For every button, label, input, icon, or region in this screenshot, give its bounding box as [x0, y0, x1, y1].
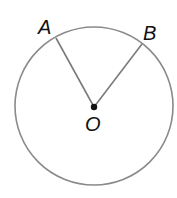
label-A: A — [37, 16, 51, 38]
radius-OB — [94, 44, 142, 107]
center-point — [91, 104, 97, 110]
label-B: B — [143, 22, 156, 44]
radius-OA — [56, 38, 94, 107]
circle-diagram: A B O — [0, 0, 177, 198]
label-O: O — [85, 113, 101, 135]
